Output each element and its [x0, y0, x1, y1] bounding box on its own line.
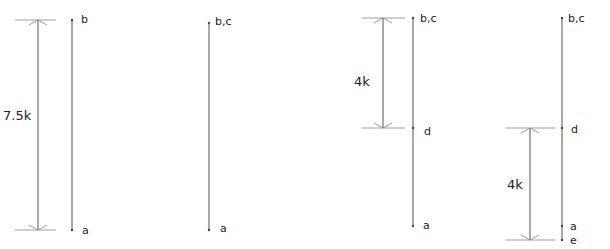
point-marker [71, 229, 73, 231]
panel-2: b,ca [208, 15, 232, 235]
point-label: b [81, 13, 88, 26]
point-label: a [570, 220, 577, 233]
dimension-label: 7.5k [3, 108, 32, 123]
dimension-line: 4k [354, 18, 405, 128]
point-label: b,c [420, 12, 437, 25]
point-marker [561, 127, 563, 129]
dimension-label: 4k [354, 74, 370, 89]
point-marker [208, 229, 210, 231]
panel-3: 4kb,cda [354, 12, 437, 232]
point-label: b,c [215, 15, 232, 28]
panel-4: 4kb,cdae [506, 12, 585, 247]
point-label: a [82, 224, 89, 237]
dimension-line: 7.5k [3, 20, 56, 230]
point-label: d [571, 123, 578, 136]
point-marker [71, 19, 73, 21]
point-label: e [570, 234, 577, 247]
point-marker [412, 225, 414, 227]
point-label: a [423, 219, 430, 232]
panel-1: 7.5kba [3, 13, 89, 237]
point-marker [412, 127, 414, 129]
diagram-canvas: 7.5kbab,ca4kb,cda4kb,cdae [0, 0, 610, 249]
point-marker [561, 17, 563, 19]
point-marker [412, 17, 414, 19]
dimension-label: 4k [507, 177, 523, 192]
point-label: b,c [568, 12, 585, 25]
point-marker [561, 225, 563, 227]
point-marker [208, 22, 210, 24]
point-label: a [220, 222, 227, 235]
dimension-line: 4k [506, 128, 555, 240]
point-marker [561, 239, 563, 241]
point-label: d [424, 125, 431, 138]
